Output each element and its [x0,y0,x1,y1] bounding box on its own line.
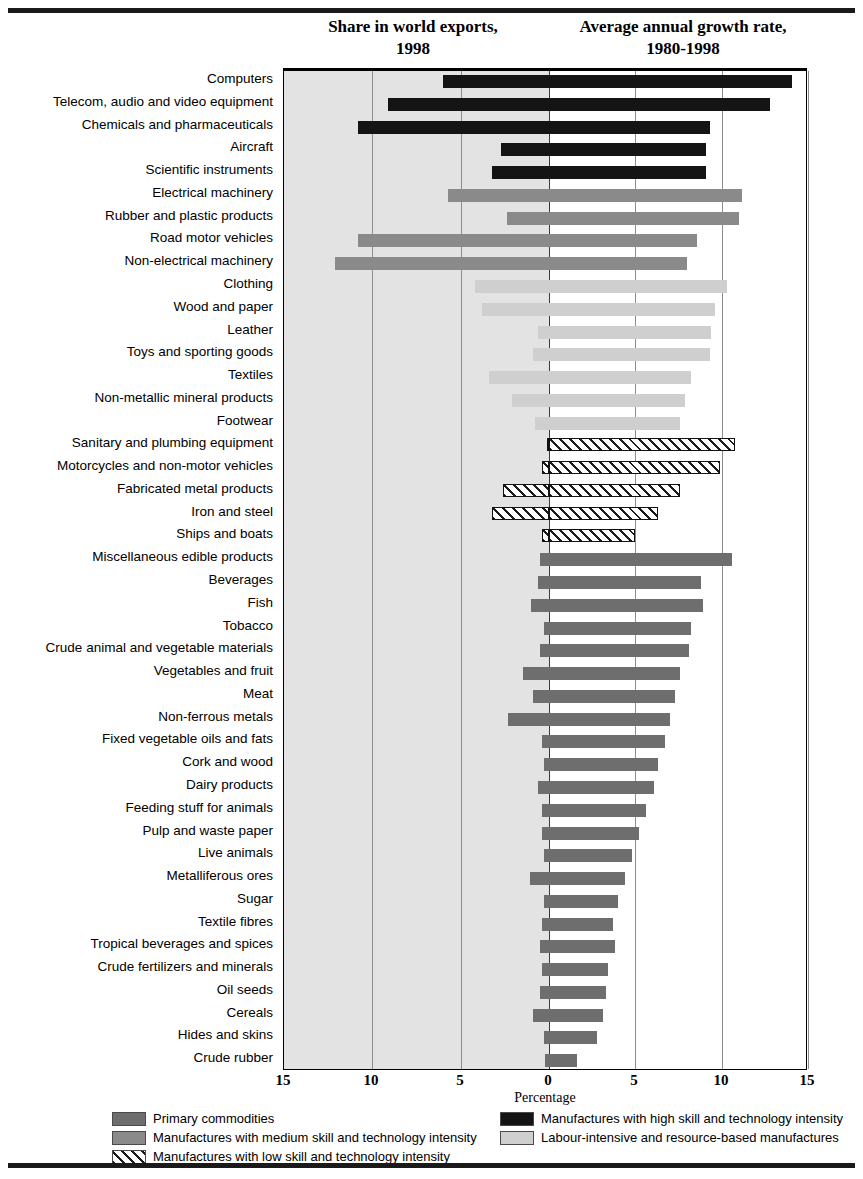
growth-bar [549,553,732,566]
category-label: Cork and wood [182,751,273,773]
category-label: Iron and steel [191,501,273,523]
share-bar [482,303,549,316]
category-label: Motorcycles and non-motor vehicles [57,455,273,477]
growth-bar [549,622,691,635]
x-tick-label: 10 [351,1072,391,1089]
category-label: Aircraft [230,136,273,158]
legend-swatch-icon [112,1131,146,1145]
bar-row [284,504,806,526]
growth-bar [549,507,658,520]
bar-row [284,481,806,503]
share-bar [538,576,549,589]
growth-bar [549,189,742,202]
growth-bar [549,895,618,908]
legend-item-low: Manufactures with low skill and technolo… [112,1148,450,1164]
category-label: Feeding stuff for animals [125,797,273,819]
growth-bar [549,644,689,657]
share-bar [540,986,549,999]
growth-bar [549,713,670,726]
growth-bar [549,212,739,225]
bar-row [284,868,806,890]
growth-bar [549,758,658,771]
share-bar [533,1009,549,1022]
growth-bar [549,484,680,497]
share-bar [533,348,549,361]
growth-bar [549,143,706,156]
bar-row [284,845,806,867]
x-tick-label: 5 [614,1072,654,1089]
share-bar [523,667,550,680]
growth-bar [549,849,632,862]
bar-row [284,253,806,275]
growth-bar [549,529,635,542]
growth-bar [549,166,706,179]
category-label: Tobacco [223,615,273,637]
category-labels: ComputersTelecom, audio and video equipm… [0,68,279,1070]
share-bar [388,98,549,111]
legend-item-labour: Labour-intensive and resource-based manu… [500,1129,839,1145]
bar-row [284,230,806,252]
category-label: Scientific instruments [145,159,273,181]
category-label: Hides and skins [178,1024,273,1046]
share-bar [335,257,549,270]
x-tick-label: 10 [701,1072,741,1089]
bar-row [284,94,806,116]
legend-swatch-icon [112,1112,146,1126]
bar-row [284,208,806,230]
heading-growth-line2: 1980-1998 [548,38,818,60]
share-bar [475,280,549,293]
x-tick-label: 15 [787,1072,827,1089]
category-label: Crude fertilizers and minerals [97,956,273,978]
category-label: Computers [207,68,273,90]
bar-row [284,390,806,412]
x-tick-label: 5 [440,1072,480,1089]
category-label: Dairy products [186,774,273,796]
share-bar [542,529,549,542]
heading-growth-line1: Average annual growth rate, [548,16,818,38]
category-label: Fixed vegetable oils and fats [102,728,273,750]
bar-row [284,777,806,799]
category-label: Toys and sporting goods [127,341,273,363]
category-label: Non-ferrous metals [158,706,273,728]
category-label: Footwear [217,410,273,432]
column-headings: Share in world exports, 1998 Average ann… [0,16,863,66]
share-bar [530,872,549,885]
growth-bar [549,872,625,885]
growth-bar [549,326,711,339]
x-tick-label: 15 [263,1072,303,1089]
bar-row [284,413,806,435]
growth-bar [549,918,613,931]
bar-row [284,276,806,298]
legend-item-medium: Manufactures with medium skill and techn… [112,1129,477,1145]
x-tick-label: 0 [528,1072,568,1089]
share-bar [535,417,549,430]
heading-share-in-world-exports: Share in world exports, 1998 [283,16,543,60]
growth-bar [549,827,639,840]
legend-swatch-icon [112,1150,146,1164]
category-label: Textile fibres [198,911,273,933]
heading-share-line2: 1998 [283,38,543,60]
legend-label: Manufactures with low skill and technolo… [153,1149,450,1164]
growth-bar [549,371,691,384]
category-label: Pulp and waste paper [142,820,273,842]
growth-bar [549,940,615,953]
bar-row [284,1027,806,1049]
bar-row [284,322,806,344]
bar-row [284,618,806,640]
share-bar [542,827,549,840]
category-label: Wood and paper [173,296,273,318]
bar-row [284,686,806,708]
category-label: Crude animal and vegetable materials [46,637,273,659]
bar-row [284,572,806,594]
bar-row [284,344,806,366]
growth-bar [549,303,715,316]
category-label: Fish [247,592,273,614]
bar-row [284,435,806,457]
growth-bar [549,963,608,976]
share-bar [512,394,549,407]
growth-bar [549,986,606,999]
growth-bar [549,234,697,247]
share-bar [492,507,549,520]
share-bar [507,212,549,225]
bar-row [284,959,806,981]
